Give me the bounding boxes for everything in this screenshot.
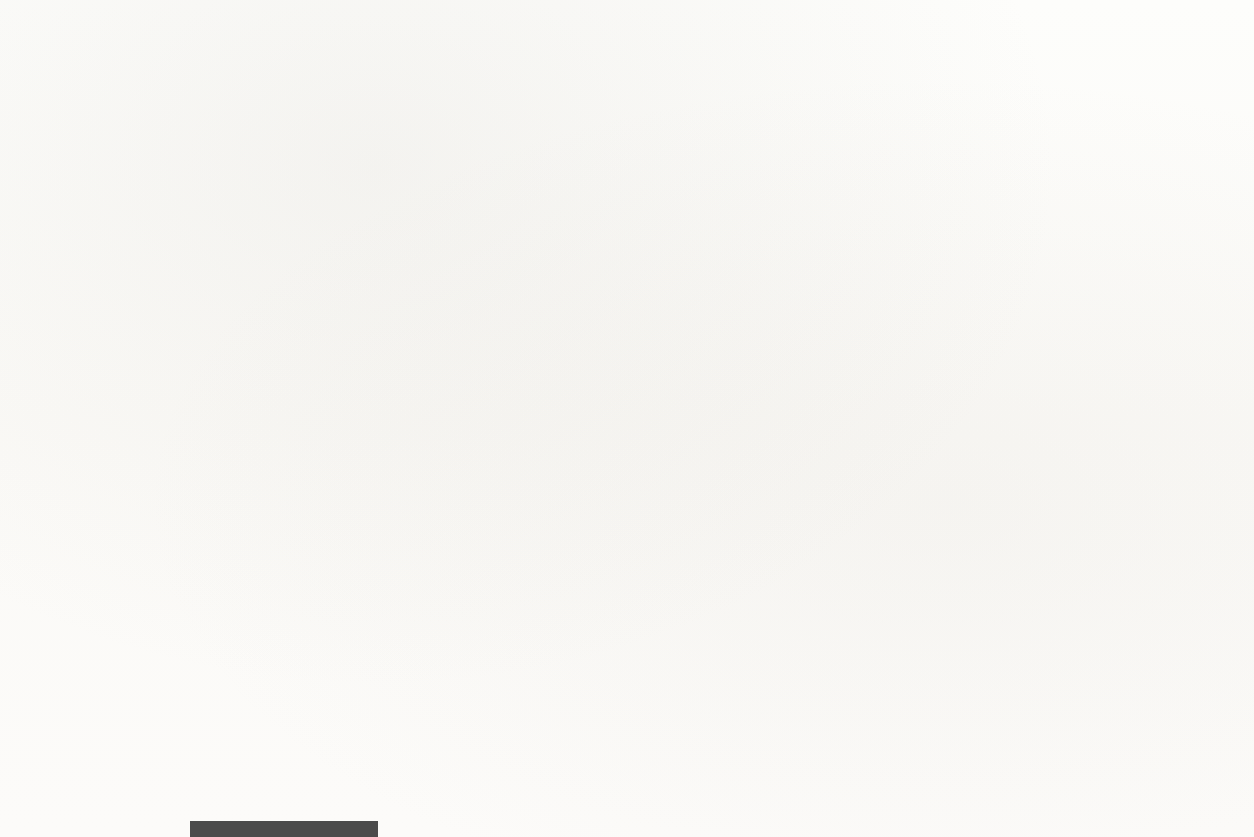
chart-figure: -10-505101520 19501955196019651970197519…	[0, 0, 1254, 837]
x-tick-label: 1965	[367, 723, 405, 742]
x-tick-label: 2005	[1095, 723, 1133, 742]
annotation-arrowhead-nao-duraveis	[351, 466, 359, 480]
annotation-label-nao-duraveis: Não duráveis	[330, 585, 430, 604]
x-tick-label: 1985	[731, 723, 769, 742]
series-line-no-durveis	[113, 390, 1205, 539]
data-series-group	[113, 50, 1205, 684]
y-axis-tick-labels: -10-505101520	[69, 79, 94, 728]
y-axis-ticks	[102, 88, 113, 718]
y-tick-label: 15	[75, 184, 94, 203]
x-tick-label: 1950	[94, 723, 132, 742]
y-tick-label: 0	[85, 499, 94, 518]
y-axis-title: Taxa de crescimento (porcentagem anual)	[32, 271, 49, 570]
x-tick-label: 1995	[913, 723, 951, 742]
y-tick-label: 20	[75, 79, 94, 98]
annotation-label-duraveis: Duráveis	[330, 140, 397, 159]
x-tick-label: 1990	[822, 723, 860, 742]
annotation-arrow-duraveis	[229, 168, 318, 218]
x-axis-tick-labels: 1950195519601965197019751980198519901995…	[94, 723, 1224, 742]
growth-rate-line-chart: -10-505101520 19501955196019651970197519…	[0, 0, 1254, 837]
x-tick-label: 1980	[640, 723, 678, 742]
annotation-label-pnb: PNB	[893, 231, 928, 250]
annotation-arrow-nao-duraveis	[351, 466, 382, 580]
x-tick-label: 1960	[276, 723, 314, 742]
y-tick-label: -5	[79, 604, 94, 623]
x-tick-label: 1975	[549, 723, 587, 742]
annotation-arrow-pnb	[740, 258, 885, 377]
y-tick-label: 10	[75, 289, 94, 308]
series-line-pnb	[113, 325, 1205, 581]
y-tick-label: 5	[85, 394, 94, 413]
page-footer-bar	[190, 821, 378, 837]
x-tick-label: 2000	[1004, 723, 1042, 742]
x-tick-label: 2010	[1186, 723, 1224, 742]
annotation-arrowhead-duraveis	[229, 208, 243, 218]
x-axis-title: Ano	[645, 772, 674, 789]
y-tick-label: -10	[69, 709, 94, 728]
x-tick-label: 1955	[185, 723, 223, 742]
x-tick-label: 1970	[458, 723, 496, 742]
